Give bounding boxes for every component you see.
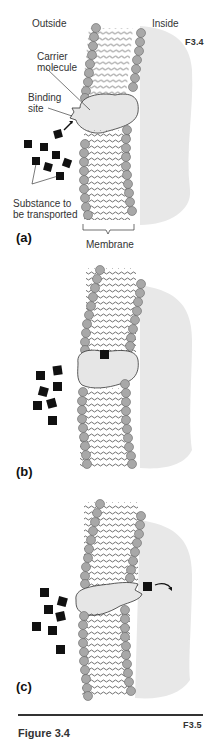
inside-label: Inside bbox=[152, 18, 179, 29]
panel-label-b: (b) bbox=[16, 464, 33, 479]
substance-molecules bbox=[32, 588, 68, 654]
substance-molecules bbox=[24, 129, 72, 180]
approach-arrow bbox=[64, 122, 72, 130]
binding-label-line2: site bbox=[28, 103, 44, 114]
carrier-label-line2: molecule bbox=[37, 62, 77, 73]
substance-label-line1: Substance to bbox=[13, 198, 71, 209]
panel-b bbox=[33, 266, 192, 469]
cytoplasm-region bbox=[140, 26, 192, 225]
panel-c bbox=[32, 500, 192, 701]
released-substance bbox=[143, 582, 152, 591]
figure-code-top: F3.4 bbox=[185, 37, 204, 47]
bound-substance bbox=[100, 350, 109, 359]
figure-code-bottom: F3.5 bbox=[183, 720, 202, 730]
substance-molecules bbox=[33, 365, 63, 425]
panel-label-c: (c) bbox=[16, 679, 32, 694]
substance-label-line2: be transported bbox=[13, 209, 78, 220]
membrane-label: Membrane bbox=[86, 239, 134, 250]
membrane-bracket bbox=[83, 224, 134, 234]
figure-caption-partial: Figure 3.4 bbox=[18, 727, 70, 739]
binding-label-line1: Binding bbox=[28, 92, 61, 103]
carrier-label-line1: Carrier bbox=[37, 51, 68, 62]
panel-label-a: (a) bbox=[16, 230, 32, 245]
divider-rule bbox=[18, 714, 203, 716]
outside-label: Outside bbox=[32, 18, 66, 29]
